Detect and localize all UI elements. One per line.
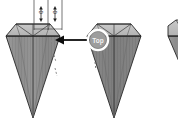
gemstone-left-crown [6, 24, 60, 36]
dimension-right-arrow-down [53, 19, 57, 22]
dimension-left-label: 0 [38, 10, 44, 14]
dash-mark-2 [54, 55, 56, 62]
gemstone-right-partial [168, 20, 178, 78]
gemstone-left [6, 24, 60, 118]
gemstone-diagram-svg: 0 0 [0, 0, 178, 137]
dimension-left: 0 [38, 6, 44, 22]
dimension-left-arrow-down [39, 19, 43, 22]
dimension-right: 0 [52, 6, 58, 22]
dimension-right-arrow-up [53, 6, 57, 9]
diagram-canvas: 0 0 [0, 0, 178, 137]
top-callout[interactable]: Top [55, 30, 108, 50]
dash-mark-3 [55, 68, 57, 76]
callout-badge-label: Top [92, 37, 103, 45]
pavilion-outline [168, 36, 178, 78]
crown-outline [168, 20, 178, 36]
gemstone-left-pavilion [6, 36, 60, 118]
gemstone-center-pavilion [87, 36, 141, 118]
dimension-left-arrow-up [39, 6, 43, 9]
dimension-right-label: 0 [52, 10, 58, 14]
